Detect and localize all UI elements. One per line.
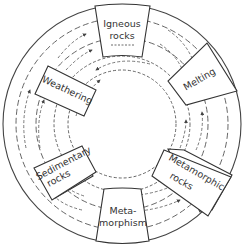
igneous-label-2: rocks — [109, 30, 134, 41]
metamorphism-label-2: morphism — [99, 217, 147, 228]
node-melting: Melting — [168, 43, 237, 105]
node-igneous-rocks: Igneous rocks — [95, 4, 150, 57]
node-metamorphism: Meta- morphism — [96, 188, 149, 244]
metamorphism-label-1: Meta- — [109, 205, 136, 216]
node-metamorphic-rocks: Metamorphic rocks — [152, 149, 232, 216]
node-weathering: Weathering — [35, 66, 96, 116]
rock-cycle-diagram: Igneous rocks Melting Metamorphic rocks … — [0, 0, 245, 248]
node-sedimentary-rocks: Sedimentary rocks — [34, 144, 96, 200]
igneous-label-1: Igneous — [103, 18, 141, 29]
